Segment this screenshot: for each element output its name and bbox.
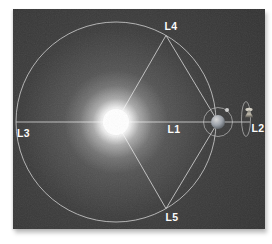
scanned-page: L1 L2 L3 L4 L5 — [0, 0, 272, 244]
film-grain-overlay — [13, 9, 265, 229]
lagrange-diagram: L1 L2 L3 L4 L5 — [13, 9, 265, 229]
lagrange-points-figure: L1 L2 L3 L4 L5 — [13, 9, 265, 229]
